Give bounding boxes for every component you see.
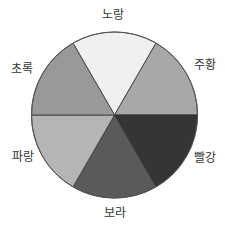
- slice-label: 초록: [11, 63, 33, 75]
- slice-label: 주황: [194, 59, 216, 71]
- slice-label: 노랑: [102, 9, 124, 21]
- slice-label: 빨강: [194, 152, 216, 164]
- slice-label: 보라: [104, 207, 126, 219]
- pie-chart: [0, 0, 225, 227]
- slice-label: 파랑: [12, 151, 34, 163]
